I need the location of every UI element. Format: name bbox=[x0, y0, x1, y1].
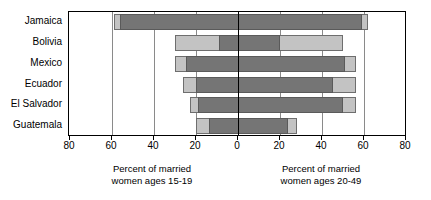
x-axis-tick-label: 40 bbox=[133, 140, 173, 151]
axis-caption-right-line2: women ages 20-49 bbox=[246, 175, 396, 187]
bar-row bbox=[69, 33, 405, 54]
bar-row bbox=[69, 54, 405, 75]
zero-axis-line bbox=[238, 12, 239, 135]
x-axis-tick-label: 80 bbox=[49, 140, 89, 151]
axis-caption-right: Percent of married women ages 20-49 bbox=[246, 163, 396, 187]
bar-segment-inner bbox=[198, 97, 343, 113]
bar-segment-inner bbox=[196, 77, 333, 93]
axis-caption-left-line1: Percent of married bbox=[77, 163, 227, 175]
axis-caption-right-line1: Percent of married bbox=[246, 163, 396, 175]
bar-row bbox=[69, 95, 405, 116]
category-label: Guatemala bbox=[13, 115, 62, 136]
x-axis-tick-label: 80 bbox=[385, 140, 425, 151]
axis-caption-left-line2: women ages 15-19 bbox=[77, 175, 227, 187]
bar-rows bbox=[69, 12, 405, 135]
chart-title: Latin America and the Caribbean bbox=[78, 0, 212, 2]
bar-row bbox=[69, 12, 405, 33]
bar-segment-inner bbox=[120, 14, 362, 30]
category-label: Mexico bbox=[30, 53, 62, 74]
category-label: Bolivia bbox=[33, 32, 62, 53]
bar-segment-inner bbox=[209, 118, 289, 134]
plot-area bbox=[68, 11, 406, 136]
bar-segment-inner bbox=[186, 56, 346, 72]
category-axis: JamaicaBoliviaMexicoEcuadorEl SalvadorGu… bbox=[0, 11, 66, 136]
axis-caption-left: Percent of married women ages 15-19 bbox=[77, 163, 227, 187]
x-axis-tick-label: 60 bbox=[91, 140, 131, 151]
x-axis-tick-label: 20 bbox=[259, 140, 299, 151]
category-label: El Salvador bbox=[11, 94, 62, 115]
chart-container: Latin America and the Caribbean JamaicaB… bbox=[0, 0, 431, 200]
bar-segment-inner bbox=[219, 35, 280, 51]
x-axis-tick-label: 0 bbox=[217, 140, 257, 151]
bar-row bbox=[69, 75, 405, 96]
x-axis-tick-label: 20 bbox=[175, 140, 215, 151]
bar-row bbox=[69, 116, 405, 137]
category-label: Jamaica bbox=[25, 11, 62, 32]
category-label: Ecuador bbox=[25, 74, 62, 95]
x-axis-tick-label: 60 bbox=[343, 140, 383, 151]
x-axis-tick-label: 40 bbox=[301, 140, 341, 151]
